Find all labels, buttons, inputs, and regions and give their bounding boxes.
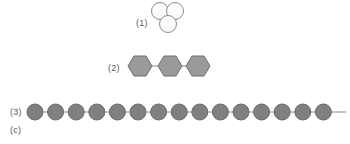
chain-circle — [295, 104, 311, 120]
chain-circle — [89, 104, 105, 120]
chain-circle — [233, 104, 249, 120]
chain-circle — [130, 104, 146, 120]
chain-circle — [192, 104, 208, 120]
chain-circle — [171, 104, 187, 120]
panel-label: (c) — [10, 126, 21, 135]
chain-circle — [109, 104, 125, 120]
chain-circle — [151, 104, 167, 120]
item-1-label: (1) — [136, 19, 148, 28]
chain-circle — [68, 104, 84, 120]
trimer-circles-svg — [151, 2, 191, 36]
chain-circle — [274, 104, 290, 120]
chain-circle — [315, 104, 331, 120]
chain-circle — [48, 104, 64, 120]
circle-chain-group — [24, 96, 350, 128]
hexagon-chain-group — [126, 52, 216, 80]
chain-circle — [212, 104, 228, 120]
hexagon-unit-3 — [186, 56, 210, 76]
trimer-circle-bottom — [160, 16, 177, 33]
hexagon-chain-svg — [126, 52, 216, 80]
item-3-label: (3) — [10, 108, 22, 117]
hexagon-unit-1 — [128, 56, 152, 76]
item-2-label: (2) — [108, 64, 120, 73]
trimer-circles-group — [151, 2, 191, 36]
chain-circle — [27, 104, 43, 120]
hexagon-unit-2 — [158, 56, 182, 76]
figure-panel-c: (1) (2) (3) — [0, 0, 350, 144]
circle-chain-svg — [24, 96, 350, 128]
chain-circle — [254, 104, 270, 120]
